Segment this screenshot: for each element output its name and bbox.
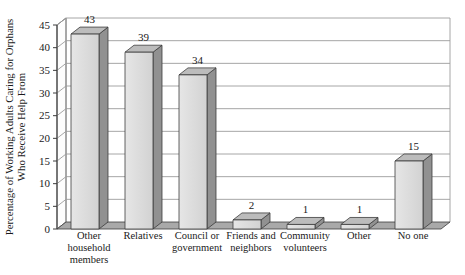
bar-front-face	[287, 224, 315, 229]
bar-value-label: 2	[249, 199, 255, 211]
x-category-label: government	[172, 242, 222, 253]
bar-front-face	[125, 52, 153, 229]
x-category-label: Friends and	[226, 230, 276, 241]
bar-side-face	[207, 68, 216, 229]
bar-side-face	[99, 27, 108, 229]
bar-front-face	[233, 220, 261, 229]
y-tick-label: 5	[45, 200, 51, 212]
y-tick-label: 10	[39, 177, 51, 189]
bar-chart-figure: 05101520253035404543Otherhouseholdmember…	[0, 0, 465, 275]
x-category-label: members	[70, 254, 109, 265]
y-tick-label: 0	[45, 223, 51, 235]
x-category-label: household	[67, 242, 111, 253]
y-tick-label: 45	[39, 19, 51, 31]
bar-front-face	[395, 161, 423, 229]
bar-front-face	[179, 75, 207, 229]
x-category-label: Other	[77, 230, 101, 241]
bar-side-face	[153, 45, 162, 229]
y-tick-label: 15	[39, 155, 51, 167]
bar-value-label: 39	[138, 31, 150, 43]
bar-front-face	[341, 224, 369, 229]
y-tick-label: 25	[39, 109, 51, 121]
x-category-label: Council or	[175, 230, 220, 241]
chart-canvas: 05101520253035404543Otherhouseholdmember…	[0, 0, 465, 275]
x-category-label: neighbors	[230, 242, 271, 253]
y-tick-label: 30	[39, 87, 51, 99]
bar-value-label: 1	[357, 203, 363, 215]
bar-front-face	[71, 34, 99, 229]
bar-value-label: 15	[408, 140, 420, 152]
y-axis-wall	[57, 18, 66, 229]
x-category-label: volunteers	[283, 242, 327, 253]
y-axis-title-line1: Percentage of Working Adults Caring for …	[3, 19, 15, 236]
y-axis-title-line2: Who Receive Help From	[15, 72, 27, 181]
x-category-label: Community	[280, 230, 331, 241]
x-category-label: Relatives	[123, 230, 162, 241]
y-tick-label: 35	[39, 64, 51, 76]
bar-value-label: 43	[84, 13, 96, 25]
x-category-label: Other	[347, 230, 371, 241]
x-category-label: No one	[398, 230, 429, 241]
bar-value-label: 34	[192, 54, 204, 66]
y-tick-label: 40	[39, 41, 51, 53]
bar-value-label: 1	[303, 203, 309, 215]
bar-side-face	[423, 154, 432, 229]
y-tick-label: 20	[39, 132, 51, 144]
